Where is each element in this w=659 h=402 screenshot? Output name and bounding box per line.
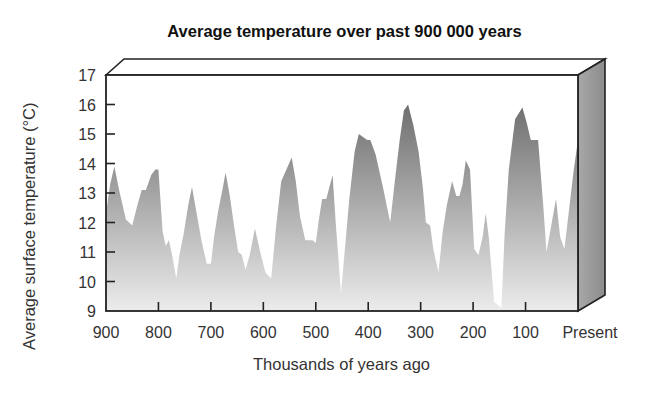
y-tick-label: 15 [78,126,96,143]
y-tick-label: 14 [78,156,96,173]
frame-top-panel [106,59,605,75]
frame-side-panel [578,59,605,311]
x-tick-label: 200 [460,324,487,341]
y-tick-label: 12 [78,215,96,232]
x-tick-label: 500 [302,324,329,341]
x-tick-label: Present [562,324,618,341]
x-tick-label: 900 [93,324,120,341]
y-tick-label: 16 [78,97,96,114]
x-tick-label: 300 [407,324,434,341]
y-axis-ticks: 91011121314151617 [78,67,115,320]
y-tick-label: 11 [79,244,96,261]
x-tick-label: 600 [250,324,277,341]
x-tick-label: 700 [198,324,225,341]
x-tick-label: 800 [145,324,172,341]
y-tick-label: 9 [87,303,96,320]
y-tick-label: 17 [78,67,96,84]
temperature-area-chart: 91011121314151617 9008007006005004003002… [0,0,659,402]
x-tick-label: 100 [512,324,539,341]
y-tick-label: 13 [78,185,96,202]
y-tick-label: 10 [78,274,96,291]
x-tick-label: 400 [355,324,382,341]
